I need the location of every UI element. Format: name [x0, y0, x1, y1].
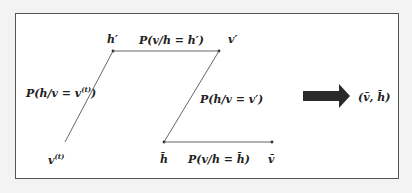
node-v-t-sup: (t): [54, 152, 64, 161]
node-v-bar: v̄: [268, 154, 274, 165]
node-h-bar: h̄: [160, 154, 168, 165]
edge-label-p-v-given-hprime: P(v/h = h′): [139, 35, 204, 46]
node-v-t: v(t): [48, 153, 64, 166]
edge-label-p-h-given-vt-suffix: ): [91, 87, 96, 100]
edge-label-p-h-given-vt-sup: (t): [81, 85, 91, 94]
edge-label-p-v-given-hbar: P(v/h = h̄): [188, 154, 250, 165]
node-v-prime: v′: [228, 34, 237, 45]
big-right-arrow-icon: [303, 84, 350, 108]
node-h-prime: h′: [107, 34, 118, 45]
edge-label-p-h-given-vt: P(h/v = v(t)): [26, 86, 96, 99]
result-label: (v̄, h̄): [358, 92, 390, 103]
edge-label-p-h-given-vprime: P(h/v = v′): [200, 94, 263, 105]
edge-label-p-h-given-vt-prefix: P(h/v = v: [26, 87, 81, 100]
